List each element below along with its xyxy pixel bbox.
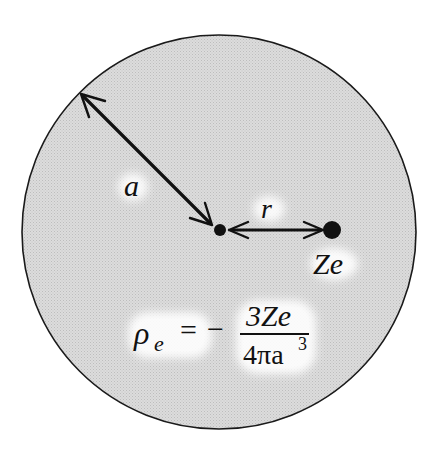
minus-sign: −	[207, 312, 224, 345]
fraction-numerator: 3Ze	[245, 299, 291, 332]
rho-subscript: e	[154, 331, 164, 356]
sphere-diagram: a r Ze ρ e = − 3Ze 4πa 3	[0, 0, 440, 455]
denominator-exponent: 3	[298, 334, 307, 354]
rho-symbol: ρ	[133, 315, 149, 351]
nucleus-charge-label: Ze	[313, 247, 343, 280]
radius-label: a	[124, 169, 139, 202]
distance-label: r	[261, 193, 272, 224]
center-point	[214, 224, 226, 236]
equals-sign: =	[180, 313, 197, 346]
fraction-denominator: 4πa	[243, 339, 284, 370]
nucleus-point	[323, 221, 341, 239]
